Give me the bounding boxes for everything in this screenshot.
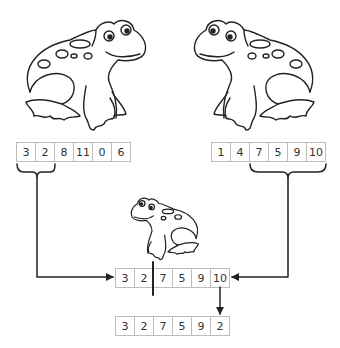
connector-overlay bbox=[0, 0, 340, 348]
right-connector-arrow bbox=[232, 178, 288, 277]
left-connector-arrow bbox=[37, 177, 113, 277]
right-brace bbox=[250, 164, 326, 178]
left-brace bbox=[17, 164, 55, 177]
